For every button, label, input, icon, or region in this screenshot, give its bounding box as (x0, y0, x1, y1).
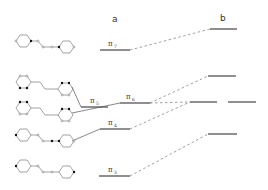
pi5-symbol: π (90, 97, 95, 105)
pi5-subscript: 5 (96, 101, 99, 106)
pi6-subscript: 6 (132, 97, 135, 102)
molecule-pi3 (15, 160, 75, 178)
molecule-pi5 (16, 75, 73, 96)
level-pi4: π 4 (100, 119, 130, 129)
pi7-subscript: 7 (114, 44, 117, 49)
molecule-pi6 (16, 101, 73, 122)
pi4-subscript: 4 (114, 123, 117, 128)
pi4-symbol: π (108, 119, 113, 127)
pi3-subscript: 3 (114, 170, 117, 175)
molecule-connectors (72, 87, 120, 141)
column-b-label: b (220, 13, 226, 23)
pi7-symbol: π (108, 40, 113, 48)
pi6-symbol: π (126, 93, 131, 101)
pi3-symbol: π (108, 166, 113, 174)
level-pi5: π 5 (81, 97, 108, 107)
column-a-label: a (112, 14, 118, 24)
molecule-pi7 (15, 35, 75, 53)
level-pi3: π 3 (99, 166, 130, 176)
molecule-pi4 (15, 129, 75, 147)
orbital-correlation-diagram: a b π 7 π 5 π 6 π 4 π 3 (0, 0, 268, 190)
level-pi7: π 7 (100, 40, 130, 50)
level-pi6: π 6 (120, 93, 150, 103)
